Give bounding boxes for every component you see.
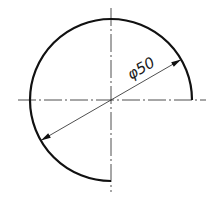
arrowhead-upper-right <box>171 60 181 67</box>
technical-drawing: φ50 <box>0 0 219 205</box>
diameter-label: φ50 <box>124 53 158 83</box>
arrowhead-lower-left <box>41 133 51 140</box>
